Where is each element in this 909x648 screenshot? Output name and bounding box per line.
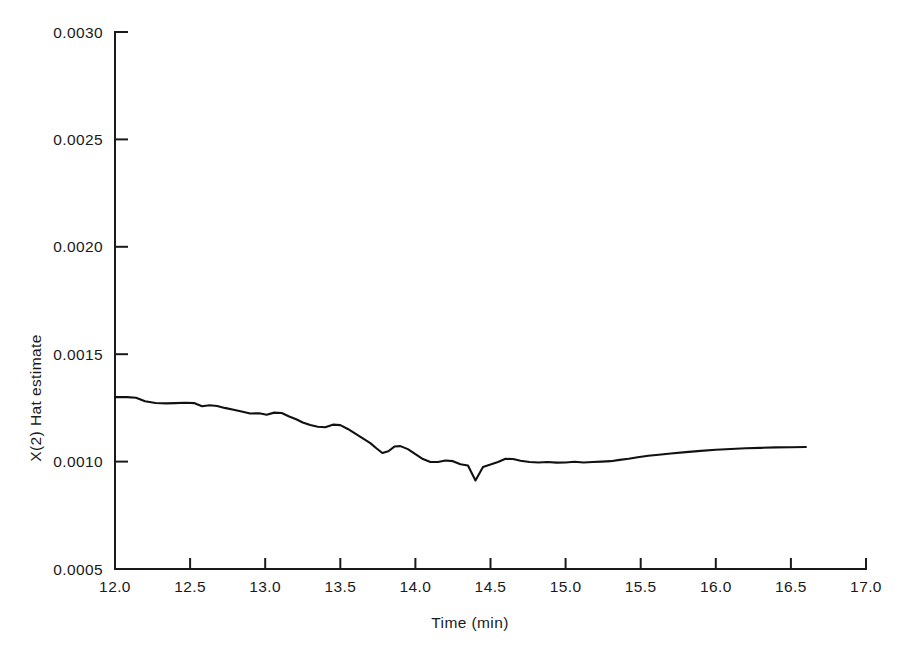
x-tick-label: 12.0 <box>99 578 131 595</box>
x-tick-label: 16.5 <box>775 578 807 595</box>
y-tick-label: 0.0010 <box>53 453 103 470</box>
x-tick-label: 13.5 <box>324 578 356 595</box>
chart-page: 0.00050.00100.00150.00200.00250.0030 X(2… <box>0 0 909 648</box>
y-tick-label: 0.0025 <box>53 131 103 148</box>
x-axis-title: Time (min) <box>431 614 508 631</box>
x-tick-label: 12.5 <box>174 578 206 595</box>
y-axis: 0.00050.00100.00150.00200.00250.0030 X(2… <box>27 24 128 578</box>
x-tick-label: 16.0 <box>700 578 732 595</box>
x-tick-label: 15.5 <box>625 578 657 595</box>
y-tick-label: 0.0030 <box>53 24 103 41</box>
y-tick-label: 0.0020 <box>53 238 103 255</box>
y-axis-title: X(2) Hat estimate <box>27 334 44 461</box>
y-axis-tick-labels: 0.00050.00100.00150.00200.00250.0030 <box>53 24 103 578</box>
y-tick-label: 0.0015 <box>53 346 103 363</box>
y-axis-tick-marks <box>115 32 128 569</box>
x-axis: 12.012.513.013.514.014.515.015.516.016.5… <box>99 558 882 631</box>
data-series-line <box>115 397 806 480</box>
x-tick-label: 17.0 <box>850 578 882 595</box>
plot-area <box>115 397 806 480</box>
x-axis-tick-marks <box>115 558 866 569</box>
x-tick-label: 15.0 <box>550 578 582 595</box>
x-tick-label: 14.5 <box>475 578 507 595</box>
x-tick-label: 14.0 <box>400 578 432 595</box>
x-axis-tick-labels: 12.012.513.013.514.014.515.015.516.016.5… <box>99 578 882 595</box>
x-tick-label: 13.0 <box>249 578 281 595</box>
line-chart: 0.00050.00100.00150.00200.00250.0030 X(2… <box>0 0 909 648</box>
y-tick-label: 0.0005 <box>53 561 103 578</box>
